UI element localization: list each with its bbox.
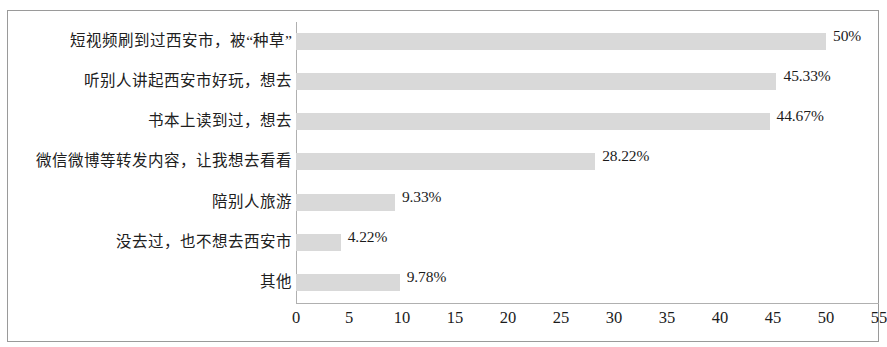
bar-row: 50% [296,22,879,62]
bar-value-label: 44.67% [777,107,824,125]
bar-value-label: 28.22% [602,147,649,165]
category-label: 书本上读到过，想去 [8,111,292,131]
category-label: 没去过，也不想去西安市 [8,232,292,252]
bar [296,113,770,130]
x-axis-tick: 0 [292,308,300,328]
bar [296,194,395,211]
category-axis-labels: 短视频刷到过西安市，被“种草”听别人讲起西安市好玩，想去书本上读到过，想去微信微… [8,22,292,303]
bar-chart-figure: 短视频刷到过西安市，被“种草”听别人讲起西安市好玩，想去书本上读到过，想去微信微… [0,0,887,347]
bar [296,274,400,291]
x-axis-tick: 35 [659,308,676,328]
category-label: 陪别人旅游 [8,192,292,212]
x-axis-tick: 45 [765,308,782,328]
bar-row: 9.78% [296,263,879,303]
bar-value-label: 4.22% [348,228,388,246]
x-axis-tick: 20 [500,308,517,328]
bar-row: 45.33% [296,62,879,102]
category-label: 微信微博等转发内容，让我想去看看 [8,151,292,171]
bar [296,234,341,251]
bar [296,153,595,170]
bar [296,73,776,90]
x-axis-tick-labels: 0510152025303540455055 [296,308,879,336]
bar-value-label: 50% [833,27,861,45]
x-axis-tick: 25 [553,308,570,328]
bar-value-label: 9.33% [402,188,442,206]
x-axis-tick: 30 [606,308,623,328]
x-axis-tick: 5 [345,308,353,328]
bar-value-label: 9.78% [407,268,447,286]
x-axis-tick: 40 [712,308,729,328]
bars-layer: 50%45.33%44.67%28.22%9.33%4.22%9.78% [296,22,879,303]
x-axis-tick: 10 [394,308,411,328]
category-label: 听别人讲起西安市好玩，想去 [8,71,292,91]
bar-row: 44.67% [296,102,879,142]
x-axis-tick: 15 [447,308,464,328]
bar [296,33,826,50]
bar-row: 28.22% [296,142,879,182]
x-axis-tick: 50 [818,308,835,328]
category-label: 其他 [8,272,292,292]
x-axis-tick: 55 [871,308,887,328]
bar-value-label: 45.33% [783,67,830,85]
category-label: 短视频刷到过西安市，被“种草” [8,31,292,51]
bar-row: 4.22% [296,223,879,263]
bar-row: 9.33% [296,183,879,223]
